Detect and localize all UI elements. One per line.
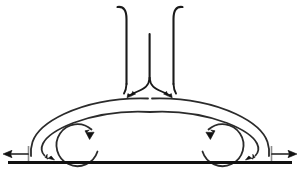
downdraft-right-edge <box>174 7 183 84</box>
rotor-vortex-left <box>56 124 97 166</box>
downdraft-left-tail <box>124 84 127 94</box>
surface-outflow-arrowhead-right <box>288 150 297 157</box>
dome-inner-arrowhead-right <box>246 154 256 160</box>
rotor-vortex-arrowhead-right <box>206 130 215 140</box>
downburst-diagram <box>0 0 300 177</box>
dome-inner-streamline-right <box>150 112 258 156</box>
downdraft-right-tail <box>174 84 177 94</box>
rotor-vortex-right <box>203 124 244 166</box>
figure-root <box>0 0 300 177</box>
dome-inner-streamline-left <box>42 112 150 156</box>
dome-inner-arrowhead-left <box>45 154 55 160</box>
rotor-vortex-arrowhead-left <box>85 130 94 140</box>
surface-outflow-arrowhead-left <box>3 150 12 157</box>
downdraft-left-edge <box>118 7 127 84</box>
